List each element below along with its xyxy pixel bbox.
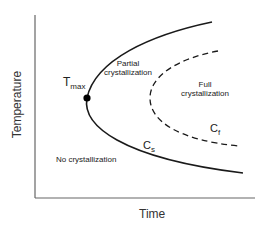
x-axis-label: Time [139, 208, 165, 221]
cf-label-sub: f [218, 128, 220, 137]
full-label-line2: crystallization [181, 90, 229, 99]
cs-label: Cs [143, 139, 155, 155]
tmax-point [83, 94, 90, 101]
cf-label-main: C [210, 122, 218, 134]
partial-label-line2: crystallization [104, 69, 152, 78]
tmax-label-sub: max [70, 82, 85, 91]
cf-label: Cf [210, 122, 220, 138]
y-axis-label: Temperature [11, 65, 24, 145]
cs-label-sub: s [151, 145, 155, 154]
diagram-canvas [0, 0, 268, 229]
cs-label-main: C [143, 139, 151, 151]
full-crystallization-label: Full crystallization [181, 81, 229, 99]
no-crystallization-label: No crystallization [56, 156, 116, 165]
tmax-label: Tmax [63, 76, 85, 92]
partial-crystallization-label: Partial crystallization [104, 60, 152, 78]
